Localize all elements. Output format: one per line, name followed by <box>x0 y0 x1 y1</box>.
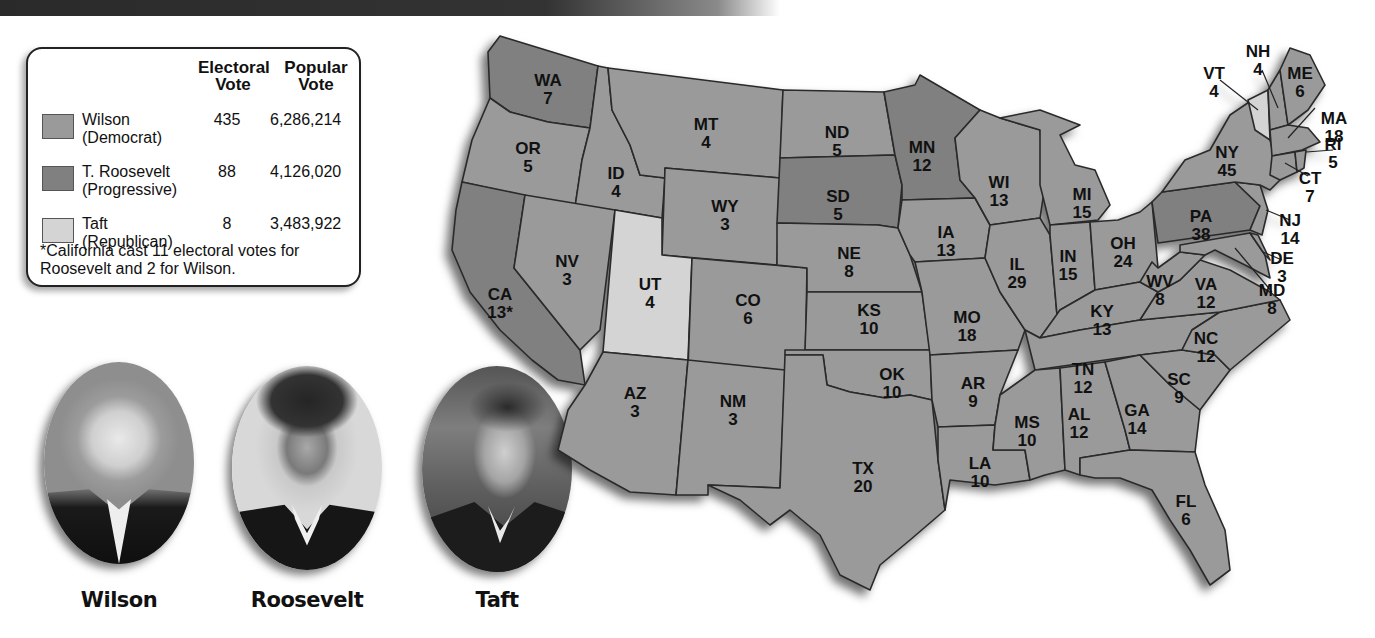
portrait-wilson <box>44 362 194 564</box>
state-label-mo: MO 18 <box>953 309 980 345</box>
state-label-wv: WV 8 <box>1146 273 1173 309</box>
state-fl <box>1080 450 1230 585</box>
state-label-nd: ND 5 <box>825 124 850 160</box>
swatch-taft <box>42 218 74 243</box>
state-label-ut: UT 4 <box>639 276 662 312</box>
electoral-vote: 8 <box>202 215 252 233</box>
state-label-ok: OK 10 <box>879 366 905 402</box>
state-label-sc: SC 9 <box>1167 371 1191 407</box>
state-label-or: OR 5 <box>515 140 541 176</box>
candidate-name: Wilson(Democrat) <box>82 111 162 147</box>
state-label-ks: KS 10 <box>857 302 881 338</box>
electoral-vote: 435 <box>202 111 252 129</box>
portrait-roosevelt <box>232 366 382 570</box>
caption-roosevelt: Roosevelt <box>232 588 382 612</box>
state-label-pa: PA 38 <box>1190 208 1212 244</box>
state-label-ia: IA 13 <box>937 224 956 260</box>
state-label-md: MD 8 <box>1259 282 1285 318</box>
swatch-roosevelt <box>42 166 74 191</box>
state-label-nv: NV 3 <box>555 253 579 289</box>
state-ct <box>1270 152 1297 180</box>
state-label-nh: NH 4 <box>1246 43 1271 79</box>
legend-row-wilson: Wilson(Democrat) 435 6,286,214 <box>42 111 362 155</box>
state-label-tn: TN 12 <box>1072 361 1095 397</box>
state-label-ca: CA 13* <box>487 286 513 322</box>
state-label-sd: SD 5 <box>826 188 850 224</box>
state-label-mn: MN 12 <box>909 139 935 175</box>
state-label-de: DE 3 <box>1270 250 1294 286</box>
title-banner <box>0 0 780 16</box>
state-label-nj: NJ 14 <box>1279 212 1301 248</box>
state-label-az: AZ 3 <box>624 385 647 421</box>
legend-row-roosevelt: T. Roosevelt(Progressive) 88 4,126,020 <box>42 163 362 207</box>
state-label-ky: KY 13 <box>1090 303 1114 339</box>
state-label-ar: AR 9 <box>961 375 986 411</box>
state-label-me: ME 6 <box>1287 65 1313 101</box>
swatch-wilson <box>42 114 74 139</box>
state-label-ms: MS 10 <box>1014 414 1040 450</box>
state-label-fl: FL 6 <box>1176 493 1197 529</box>
us-electoral-map: WA 7OR 5CA 13*ID 4NV 3MT 4WY 3UT 4CO 6AZ… <box>440 30 1375 600</box>
caption-wilson: Wilson <box>44 588 194 612</box>
electoral-vote: 88 <box>202 163 252 181</box>
header-electoral-vote: Electoral Vote <box>198 59 268 93</box>
state-label-co: CO 6 <box>735 292 761 328</box>
state-label-al: AL 12 <box>1068 406 1091 442</box>
state-label-ct: CT 7 <box>1299 170 1322 206</box>
state-label-oh: OH 24 <box>1110 235 1136 271</box>
popular-vote: 6,286,214 <box>270 111 341 129</box>
state-label-il: IL 29 <box>1008 256 1027 292</box>
california-footnote: *California cast 11 electoral votes for … <box>40 242 360 278</box>
candidate-name: T. Roosevelt(Progressive) <box>82 163 177 199</box>
state-label-la: LA 10 <box>969 455 992 491</box>
state-label-vt: VT 4 <box>1203 65 1225 101</box>
state-label-ny: NY 45 <box>1215 144 1239 180</box>
state-label-wi: WI 13 <box>989 174 1010 210</box>
map-shapes <box>440 30 1375 600</box>
state-label-id: ID 4 <box>608 165 625 201</box>
state-label-mt: MT 4 <box>694 116 719 152</box>
legend-box: Electoral Vote Popular Vote Wilson(Democ… <box>26 47 361 287</box>
state-label-ga: GA 14 <box>1124 402 1150 438</box>
state-label-tx: TX 20 <box>852 460 874 496</box>
header-popular-vote: Popular Vote <box>276 59 356 93</box>
popular-vote: 4,126,020 <box>270 163 341 181</box>
state-label-wa: WA 7 <box>534 72 561 108</box>
popular-vote: 3,483,922 <box>270 215 341 233</box>
state-label-nm: NM 3 <box>720 393 746 429</box>
state-label-mi: MI 15 <box>1073 186 1092 222</box>
state-label-in: IN 15 <box>1059 248 1078 284</box>
state-label-nc: NC 12 <box>1194 330 1219 366</box>
state-label-va: VA 12 <box>1195 276 1217 312</box>
state-label-ma: MA 18 <box>1321 110 1347 146</box>
state-label-wy: WY 3 <box>711 198 738 234</box>
state-label-ne: NE 8 <box>837 245 861 281</box>
